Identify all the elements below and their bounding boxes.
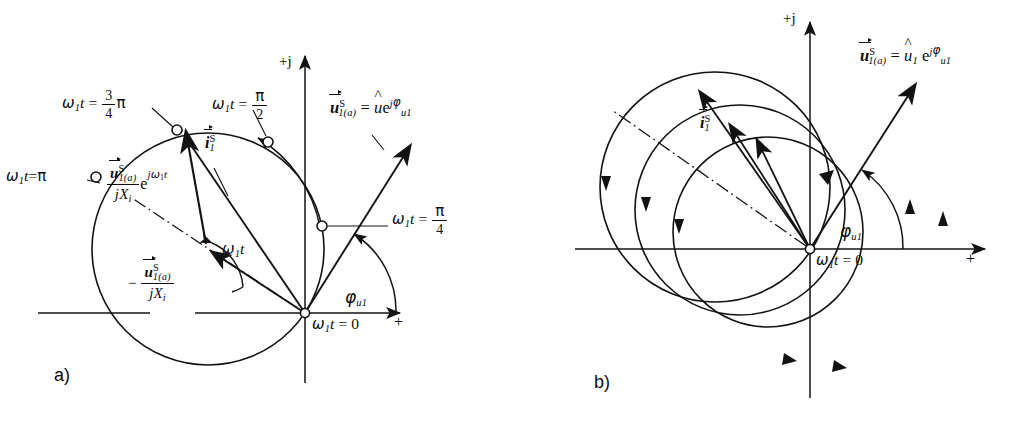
panel-b-locus-circle-middle <box>635 105 845 315</box>
panel-b-direction-arrow-5 <box>938 211 948 226</box>
label-panel-a-phi-u1: φu1 <box>345 288 367 308</box>
label-panel-b-imaginary-axis: +j <box>783 10 796 26</box>
panel-b-radius-vector-inner <box>757 140 810 249</box>
label-panel-b-real-axis: + <box>966 250 975 267</box>
fraction-three-quarters: 3 4 <box>102 88 115 121</box>
label-panel-a-rotating-term: uS1(a) jXi ejω1t <box>106 163 167 205</box>
vector-symbol-u-offset: u <box>144 264 152 281</box>
label-omega-t-pi-over-4: ω1t = π 4 <box>392 203 448 237</box>
panel-a-rotating-term-vector <box>186 132 206 244</box>
label-omega-t-pi: ω1t=π <box>6 168 46 186</box>
panel-a-omega-t-arc-tail <box>232 287 243 292</box>
vector-symbol-u-num: u <box>110 165 118 182</box>
vector-symbol-i: i <box>205 134 210 151</box>
label-panel-a-imaginary-axis: +j <box>279 53 292 69</box>
panel-b-direction-arrow-6 <box>782 353 797 365</box>
panel-b-radius-vector-outer <box>700 92 810 249</box>
panel-b-locus-circle-outer <box>600 72 830 302</box>
label-panel-b-current-vector: iS1 <box>700 113 710 133</box>
figure-container: ω1t = 3 4 π ω1t = π 2 ω1t=π ω1t = π 4 uS… <box>0 0 1011 425</box>
panel-a-marker-pi <box>91 172 101 182</box>
fraction-pi-over-four: π 4 <box>432 203 447 237</box>
panel-a-origin-marker <box>300 308 309 317</box>
panel-b-direction-arrow-1 <box>601 176 611 191</box>
panel-a-marker-pi-over-2 <box>263 137 273 147</box>
vector-symbol-u: u <box>330 99 339 117</box>
label-omega-t-3pi-over-4: ω1t = 3 4 π <box>62 88 126 121</box>
panel-a-offset-vector <box>212 252 305 313</box>
label-panel-b-origin: ω1t = 0 <box>816 252 863 270</box>
panel-b-origin-marker <box>805 244 814 253</box>
fraction-u-over-jX-offset: uS1(a) jXi <box>141 262 173 304</box>
panel-b-direction-arrow-2 <box>641 197 651 212</box>
label-panel-b-voltage-vector: uS1(a) = u1 ejφu1 <box>860 44 951 66</box>
panel-b-direction-arrow-8 <box>819 170 834 185</box>
panel-b-tag: b) <box>594 372 610 393</box>
panel-a-tag: a) <box>54 365 70 386</box>
label-panel-a-current-vector: iS1 <box>205 133 215 153</box>
hat-symbol-u-b: u <box>904 47 912 65</box>
panel-a-leader-voltage <box>372 135 384 150</box>
panel-b-radius-vector-middle <box>730 125 810 249</box>
label-panel-b-phi-u1: φu1 <box>840 222 862 242</box>
panel-a-rotation-direction-arc <box>258 138 320 227</box>
label-panel-a-offset-term: − uS1(a) jXi <box>128 262 175 304</box>
hat-symbol-u: u <box>374 99 382 117</box>
label-panel-a-voltage-vector: uS1(a) = uejφu1 <box>330 96 412 118</box>
label-omega-t-pi-over-2: ω1t = π 2 <box>212 88 268 122</box>
panel-b-phi-u1-arc <box>862 170 903 249</box>
panel-b-graphics <box>575 22 985 398</box>
panel-b-direction-arrow-4 <box>905 199 915 214</box>
label-panel-a-omega-t-arc: ω1t <box>222 241 244 259</box>
label-panel-a-origin: ω1t = 0 <box>312 316 359 334</box>
panel-a-marker-three-pi-over-4 <box>172 125 182 135</box>
panel-b-direction-arrow-3 <box>674 219 684 234</box>
fraction-pi-over-two: π 2 <box>252 88 267 122</box>
fraction-u-over-jX-rotating: uS1(a) jXi <box>107 163 139 205</box>
vector-symbol-i-b: i <box>700 114 705 131</box>
panel-b-direction-arrow-7 <box>832 360 847 372</box>
label-panel-a-real-axis: + <box>394 313 403 330</box>
panel-a-leader-3pi4 <box>152 108 173 127</box>
panel-a-marker-pi-over-4 <box>317 221 327 231</box>
vector-symbol-u-b: u <box>860 47 869 65</box>
